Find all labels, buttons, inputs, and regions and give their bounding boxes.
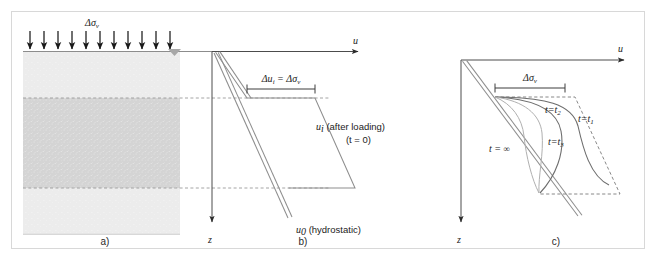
panel-c-t-infinity-line-1 (463, 61, 579, 216)
clay-layer (23, 98, 180, 188)
panel-b-u-axis-label: u (353, 35, 358, 46)
panel-c: u z Δσv (456, 43, 624, 247)
panel-c-u-axis-label: u (618, 43, 623, 54)
panel-c-label-t3-subscript: 3 (559, 141, 564, 149)
panel-b-tag: b) (299, 236, 308, 247)
panel-c-label-t-infinity: t = ∞ (489, 143, 510, 154)
panel-a-load-arrows (30, 31, 170, 49)
panel-b-delta-sigma-subscript: v (297, 78, 301, 86)
panel-b-delta-u-label: Δui = Δσv (261, 73, 301, 86)
panel-a-tag: a) (101, 236, 110, 247)
panel-c-label-t3-text: t=t (548, 136, 561, 147)
panel-c-tag: c) (552, 236, 560, 247)
figure-canvas: Δσv (0, 0, 656, 262)
panel-a-surcharge-subscript: v (96, 22, 100, 30)
panel-b: u z Δui = Δσv ui (after loading) (t = 0) (207, 35, 385, 247)
panel-c-label-t2-subscript: 2 (557, 109, 561, 117)
panel-b-delta-u-equals: = Δσ (275, 73, 299, 84)
lower-sand-layer (23, 188, 180, 234)
panel-c-label-infinity-symbol: ∞ (504, 144, 510, 154)
panel-c-label-t1-subscript: 1 (590, 118, 594, 126)
panel-b-ui-label-line1: ui (after loading) (316, 121, 385, 134)
panel-c-label-t-infinity-text: t = (489, 143, 504, 154)
figure-root: Δσv (0, 0, 656, 262)
panel-b-delta-u-symbol: Δu (261, 73, 273, 84)
panel-c-delta-sigma-subscript: v (534, 77, 538, 85)
panel-b-ui-label-line2: (t = 0) (346, 134, 371, 145)
panel-b-ui-text: (after loading) (324, 121, 385, 132)
panel-c-z-axis-label: z (456, 234, 461, 245)
upper-sand-layer (23, 52, 180, 98)
panel-c-label-t1-text: t=t (578, 113, 591, 124)
panel-c-delta-sigma-label: Δσv (522, 72, 538, 85)
panel-b-u0-text: (hydrostatic) (306, 224, 361, 235)
panel-c-label-t1: t=t1 (578, 113, 594, 126)
panel-c-label-t2-text: t=t (545, 104, 558, 115)
panel-b-z-axis-label: z (207, 234, 212, 245)
panel-a-surcharge-label: Δσv (84, 17, 100, 30)
